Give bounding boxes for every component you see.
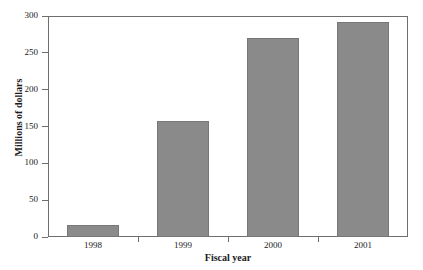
x-axis-tick-label: 2001 (318, 240, 408, 250)
y-axis-tick-label: 150 (0, 122, 38, 131)
y-axis-tick-label: 200 (0, 85, 38, 94)
y-axis-tick-label: 250 (0, 48, 38, 57)
y-axis-tick-label: 0 (0, 232, 38, 241)
bar (67, 225, 119, 237)
x-axis-title: Fiscal year (48, 252, 408, 263)
x-axis-tick-label: 2000 (228, 240, 318, 250)
clipped-top-text-artifact: · · (96, 0, 105, 4)
bar (157, 121, 209, 237)
y-axis-tick-label: 300 (0, 11, 38, 20)
bar-chart-figure: · · Millions of dollars 0501001502002503… (0, 0, 423, 270)
bar (247, 38, 299, 237)
x-axis-tick-label: 1999 (138, 240, 228, 250)
bar (337, 22, 389, 237)
y-axis-tick-label: 50 (0, 195, 38, 204)
y-axis-tick-label: 100 (0, 158, 38, 167)
x-axis-tick-label: 1998 (48, 240, 138, 250)
bars-layer (48, 16, 408, 237)
